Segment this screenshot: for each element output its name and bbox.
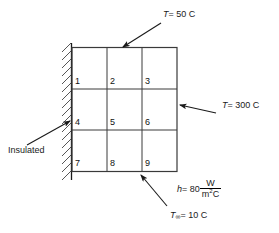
convection-units-fraction: Wm2C xyxy=(200,179,221,199)
node-label-4: 4 xyxy=(75,118,80,127)
ambient-temperature-value: = 10 C xyxy=(181,210,208,220)
convection-coefficient-label: h= 80Wm2C xyxy=(177,180,221,200)
convection-value: = 80 xyxy=(182,184,200,194)
right-temperature-label: T= 300 C xyxy=(222,101,259,110)
top-boundary-arrow xyxy=(123,23,161,47)
node-label-3: 3 xyxy=(145,77,150,86)
right-boundary-arrow xyxy=(180,105,216,113)
node-label-9: 9 xyxy=(145,159,150,168)
convection-units-numerator: W xyxy=(200,179,221,188)
top-temperature-label: T= 50 C xyxy=(163,10,195,19)
node-label-2: 2 xyxy=(110,77,115,86)
ambient-temperature-label: T∞= 10 C xyxy=(170,211,207,220)
domain-outline xyxy=(72,48,177,172)
denominator-tail: C xyxy=(213,189,220,199)
node-label-1: 1 xyxy=(75,77,80,86)
diagram-canvas xyxy=(0,0,279,233)
node-label-8: 8 xyxy=(110,159,115,168)
bottom-boundary-arrow xyxy=(141,175,167,206)
right-temperature-value: = 300 C xyxy=(228,100,260,110)
node-label-6: 6 xyxy=(145,118,150,127)
heat-conduction-diagram: 1 2 3 4 5 6 7 8 9 T= 50 C T= 300 C Insul… xyxy=(0,0,279,233)
node-label-7: 7 xyxy=(75,159,80,168)
insulated-label: Insulated xyxy=(8,146,45,155)
insulated-wall-hatching xyxy=(62,43,71,180)
top-temperature-value: = 50 C xyxy=(169,9,196,19)
insulated-boundary-arrow xyxy=(27,121,70,145)
convection-units-denominator: m2C xyxy=(200,188,221,199)
node-label-5: 5 xyxy=(110,118,115,127)
grid-lines xyxy=(72,48,177,172)
